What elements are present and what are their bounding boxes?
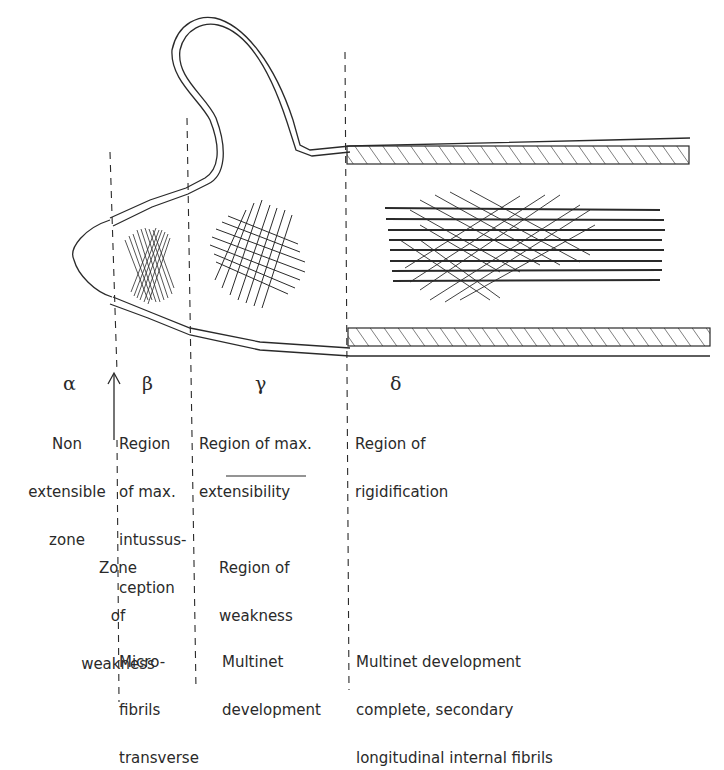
label-line: Region of max. bbox=[199, 436, 312, 452]
beta-fibrils-label: Micro- fibrils transverse bbox=[119, 622, 199, 770]
zone-alpha-symbol: α bbox=[63, 372, 76, 394]
zone-beta-symbol: β bbox=[142, 372, 153, 394]
beta-microfibrils bbox=[125, 228, 174, 304]
label-line: Non bbox=[22, 436, 112, 452]
label-line: Micro- bbox=[119, 654, 199, 670]
gamma-fibrils-label: Multinet development bbox=[222, 622, 321, 734]
delta-multinet bbox=[400, 190, 595, 302]
zone-gamma-label: Region of max. extensibility bbox=[199, 404, 312, 516]
label-line: of max. bbox=[119, 484, 186, 500]
label-line: Multinet development bbox=[356, 654, 553, 670]
delta-fibrils-label: Multinet development complete, secondary… bbox=[356, 622, 553, 770]
divider-alpha-beta bbox=[110, 152, 117, 372]
label-line: complete, secondary bbox=[356, 702, 553, 718]
label-line: rigidification bbox=[355, 484, 448, 500]
rigid-wall-bottom bbox=[348, 328, 710, 346]
zone-delta-symbol: δ bbox=[390, 372, 401, 394]
label-line: Region of bbox=[219, 560, 293, 576]
label-line: development bbox=[222, 702, 321, 718]
zone-delta-label: Region of rigidification bbox=[355, 404, 448, 516]
label-line: longitudinal internal fibrils bbox=[356, 750, 553, 766]
label-line: Zone bbox=[68, 560, 168, 576]
label-line: Multinet bbox=[222, 654, 321, 670]
zone-gamma-symbol: γ bbox=[255, 372, 266, 394]
gamma-multinet bbox=[210, 200, 305, 308]
label-line: Region of bbox=[355, 436, 448, 452]
rigid-wall-top bbox=[347, 146, 689, 164]
label-line: transverse bbox=[119, 750, 199, 766]
label-line: extensible bbox=[22, 484, 112, 500]
label-line: fibrils bbox=[119, 702, 199, 718]
divider-beta-gamma bbox=[187, 118, 196, 690]
hypha-outline bbox=[73, 17, 710, 356]
label-line: extensibility bbox=[199, 484, 312, 500]
label-line: Region bbox=[119, 436, 186, 452]
